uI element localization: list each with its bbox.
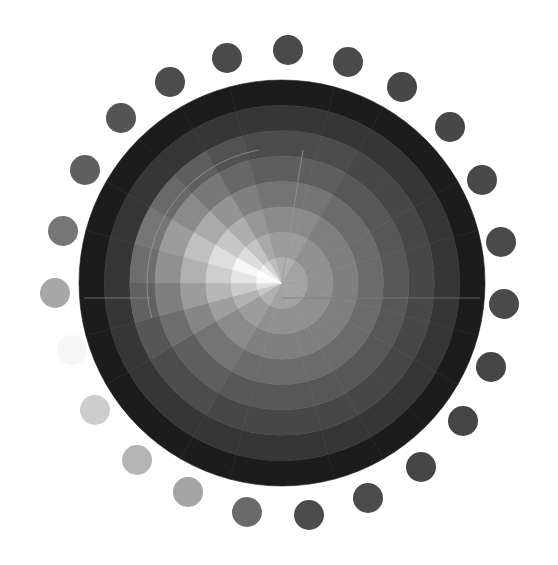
outer-dot [48, 216, 78, 246]
outer-dot [232, 497, 262, 527]
outer-dot [353, 483, 383, 513]
outer-dot [57, 335, 87, 365]
outer-dot [212, 43, 242, 73]
outer-dot [273, 35, 303, 65]
outer-dot [80, 395, 110, 425]
outer-dot [406, 452, 436, 482]
outer-dot [486, 227, 516, 257]
outer-dot [467, 165, 497, 195]
outer-dot [70, 155, 100, 185]
outer-dot [106, 103, 136, 133]
outer-dot [333, 47, 363, 77]
color-wheel [0, 0, 558, 565]
outer-dot [435, 112, 465, 142]
outer-dot [294, 500, 324, 530]
outer-dot [448, 406, 478, 436]
outer-dot [173, 477, 203, 507]
outer-dot [122, 445, 152, 475]
outer-dot [476, 352, 506, 382]
outer-dot [155, 67, 185, 97]
color-wheel-figure: Grayscale segmented color wheel [0, 0, 558, 565]
outer-dot [489, 289, 519, 319]
outer-dot [40, 278, 70, 308]
outer-dot [387, 72, 417, 102]
